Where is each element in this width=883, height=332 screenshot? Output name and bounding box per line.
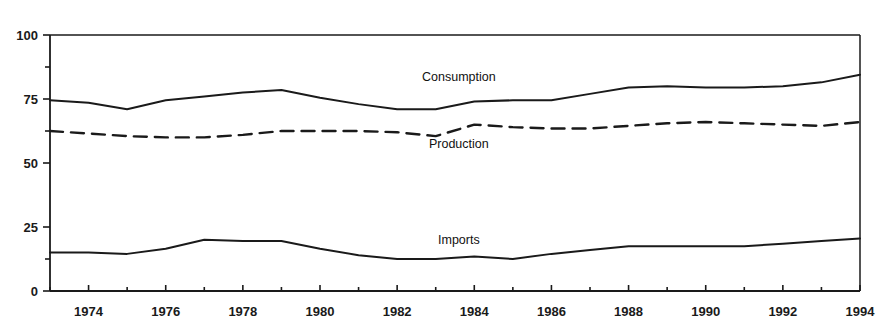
line-chart: 0255075100 19741976197819801982198419861… xyxy=(0,0,883,332)
x-tick-label: 1978 xyxy=(228,304,257,319)
y-tick-label: 50 xyxy=(24,156,38,171)
x-tick-label: 1988 xyxy=(614,304,643,319)
x-tick-label: 1990 xyxy=(691,304,720,319)
y-tick-label: 25 xyxy=(24,220,38,235)
x-tick-label: 1980 xyxy=(306,304,335,319)
x-tick-label: 1994 xyxy=(846,304,876,319)
x-tick-label: 1986 xyxy=(537,304,566,319)
x-tick-label: 1984 xyxy=(460,304,490,319)
x-tick-label: 1992 xyxy=(768,304,797,319)
y-tick-label: 75 xyxy=(24,92,38,107)
data-series-group xyxy=(50,75,860,259)
chart-figure: 0255075100 19741976197819801982198419861… xyxy=(0,0,883,332)
series-label-imports: Imports xyxy=(438,233,480,247)
x-tick-label: 1974 xyxy=(74,304,104,319)
y-axis-tick-labels: 0255075100 xyxy=(16,28,38,299)
y-tick-label: 100 xyxy=(16,28,38,43)
series-label-production: Production xyxy=(429,137,489,151)
x-axis-tick-labels: 1974197619781980198219841986198819901992… xyxy=(74,304,875,319)
series-label-consumption: Consumption xyxy=(422,70,496,84)
series-annotation-labels: ConsumptionProductionImports xyxy=(422,70,496,247)
series-line-production xyxy=(50,122,860,137)
x-tick-label: 1976 xyxy=(151,304,180,319)
y-tick-label: 0 xyxy=(31,284,38,299)
x-tick-label: 1982 xyxy=(383,304,412,319)
